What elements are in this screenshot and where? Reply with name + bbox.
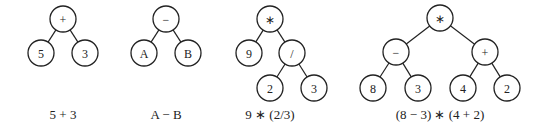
node-label: A	[140, 47, 149, 61]
node-label: −	[393, 46, 400, 60]
tree-caption: (8 − 3) ∗ (4 + 2)	[396, 107, 484, 123]
tree-node: +	[50, 6, 76, 32]
expression-tree-3: ∗9/23	[236, 6, 327, 101]
tree-node: ∗	[257, 6, 283, 32]
expression-tree-1: +53	[28, 6, 98, 66]
tree-edge	[450, 26, 474, 44]
tree-node: 5	[28, 40, 54, 66]
tree-caption: 5 + 3	[50, 107, 77, 123]
tree-node: 3	[72, 40, 98, 66]
node-label: +	[60, 13, 67, 27]
tree-node: /	[279, 40, 305, 66]
tree-edge	[380, 63, 389, 77]
node-label: 4	[460, 82, 466, 96]
expression-tree-2: −AB	[131, 6, 201, 66]
tree-node: 9	[236, 40, 262, 66]
tree-node: 2	[494, 75, 520, 101]
tree-edge	[470, 63, 478, 77]
node-label: 3	[82, 47, 88, 61]
tree-edge	[406, 26, 429, 44]
tree-node: 4	[450, 75, 476, 101]
tree-node: 3	[405, 75, 431, 101]
tree-node: −	[383, 39, 409, 65]
tree-edge	[492, 63, 500, 77]
tree-node: B	[175, 40, 201, 66]
tree-edge	[173, 30, 181, 42]
expression-tree-4: ∗−+8342	[360, 5, 520, 101]
tree-caption: A − B	[150, 107, 181, 123]
tree-node: 2	[257, 75, 283, 101]
node-label: −	[163, 13, 170, 27]
node-label: ∗	[265, 13, 275, 27]
tree-edge	[48, 30, 56, 42]
node-label: B	[184, 47, 192, 61]
tree-node: +	[472, 39, 498, 65]
node-label: 2	[504, 82, 510, 96]
tree-edge	[151, 30, 159, 42]
tree-edge	[70, 30, 78, 42]
tree-edge	[277, 64, 285, 77]
node-label: 2	[267, 82, 273, 96]
tree-node: ∗	[427, 5, 453, 31]
tree-node: 3	[301, 75, 327, 101]
node-label: 8	[370, 82, 376, 96]
tree-edge	[256, 30, 263, 42]
tree-node: 8	[360, 75, 386, 101]
tree-edge	[299, 64, 307, 77]
node-label: +	[482, 46, 489, 60]
tree-node: −	[153, 6, 179, 32]
tree-edge	[277, 30, 285, 42]
tree-edge	[403, 63, 411, 77]
tree-caption: 9 ∗ (2/3)	[245, 107, 294, 123]
node-label: 3	[311, 82, 317, 96]
tree-node: A	[131, 40, 157, 66]
node-label: 9	[246, 47, 252, 61]
node-label: 5	[38, 47, 44, 61]
node-label: 3	[415, 82, 421, 96]
node-label: ∗	[435, 12, 445, 26]
